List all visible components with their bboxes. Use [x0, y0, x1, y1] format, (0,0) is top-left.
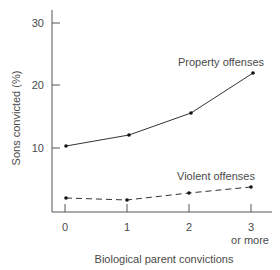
- y-tick-label-30: 30: [32, 17, 44, 29]
- line-chart: 30 20 10 0 1 2 3 or more Biological pare…: [0, 0, 280, 270]
- x-tick-label-1: 1: [124, 221, 130, 233]
- x-tick-sublabel-3: or more: [231, 234, 269, 246]
- violent-offenses-line: [66, 187, 251, 200]
- y-tick-label-20: 20: [32, 79, 44, 91]
- violent-point-2: [187, 191, 191, 195]
- y-axis-title: Sons convicted (%): [10, 71, 22, 166]
- x-axis-title: Biological parent convictions: [95, 253, 234, 265]
- violent-point-0: [64, 196, 68, 200]
- property-offenses-label: Property offenses: [178, 56, 265, 68]
- violent-offenses-label: Violent offenses: [177, 170, 255, 182]
- x-tick-label-0: 0: [62, 221, 68, 233]
- property-point-1: [127, 133, 131, 137]
- x-tick-label-3: 3: [248, 221, 254, 233]
- property-point-3: [251, 71, 255, 75]
- y-tick-label-10: 10: [32, 142, 44, 154]
- property-point-2: [189, 111, 193, 115]
- property-point-0: [64, 144, 68, 148]
- violent-point-1: [125, 198, 129, 202]
- violent-point-3: [249, 185, 253, 189]
- property-offenses-line: [66, 73, 253, 146]
- x-tick-label-2: 2: [186, 221, 192, 233]
